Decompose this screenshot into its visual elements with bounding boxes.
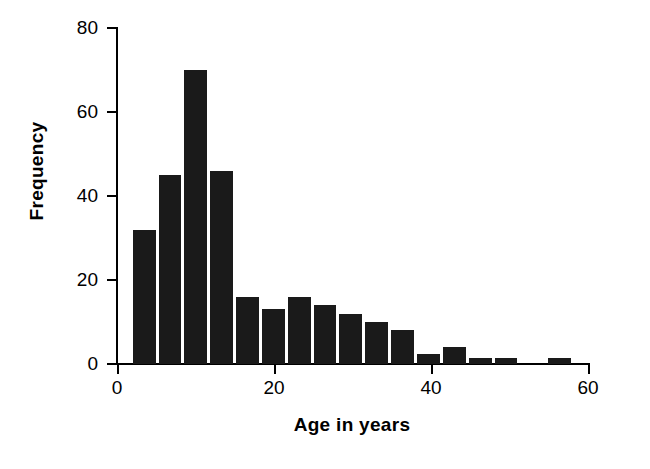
y-tick-mark bbox=[107, 363, 117, 365]
y-tick-mark bbox=[107, 279, 117, 281]
y-tick-label-40: 40 bbox=[52, 186, 98, 205]
histogram-bar bbox=[184, 70, 207, 364]
histogram-bar bbox=[443, 347, 466, 364]
y-axis-title: Frequency bbox=[26, 71, 48, 271]
histogram-bar bbox=[548, 358, 571, 364]
x-tick-label-0: 0 bbox=[87, 378, 147, 397]
x-axis-title: Age in years bbox=[117, 414, 587, 436]
histogram-figure: 80 60 40 20 0 0 20 40 60 Frequency Age i… bbox=[0, 0, 650, 469]
y-tick-label-0: 0 bbox=[52, 354, 98, 373]
y-tick-label-20: 20 bbox=[52, 270, 98, 289]
histogram-bar bbox=[417, 354, 440, 365]
x-tick-label-40: 40 bbox=[401, 378, 461, 397]
histogram-bar bbox=[133, 230, 156, 364]
x-tick-mark bbox=[588, 364, 590, 374]
y-tick-label-80: 80 bbox=[52, 18, 98, 37]
histogram-bar bbox=[391, 330, 414, 364]
histogram-bar bbox=[469, 358, 492, 364]
histogram-bar bbox=[288, 297, 311, 364]
x-tick-mark bbox=[117, 364, 119, 374]
y-tick-mark bbox=[107, 111, 117, 113]
histogram-bar bbox=[236, 297, 259, 364]
x-tick-mark bbox=[431, 364, 433, 374]
histogram-bar bbox=[159, 175, 182, 364]
histogram-bar bbox=[262, 309, 285, 364]
y-tick-mark bbox=[107, 27, 117, 29]
histogram-bar bbox=[210, 171, 233, 364]
x-tick-mark bbox=[274, 364, 276, 374]
plot-area bbox=[117, 28, 587, 364]
x-tick-label-20: 20 bbox=[244, 378, 304, 397]
y-tick-label-60: 60 bbox=[52, 102, 98, 121]
x-tick-label-60: 60 bbox=[558, 378, 618, 397]
y-tick-mark bbox=[107, 195, 117, 197]
histogram-bar bbox=[339, 314, 362, 364]
histogram-bar bbox=[314, 305, 337, 364]
histogram-bar bbox=[365, 322, 388, 364]
histogram-bar bbox=[495, 358, 518, 364]
